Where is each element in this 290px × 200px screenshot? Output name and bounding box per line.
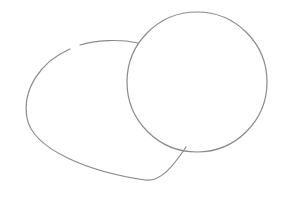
blob-shape xyxy=(26,41,186,181)
sketch xyxy=(0,0,290,200)
circle-shape xyxy=(127,12,267,152)
drawing-canvas xyxy=(0,0,290,200)
